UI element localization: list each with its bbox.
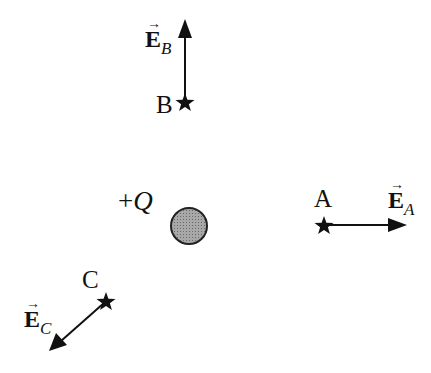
charge-symbol: Q xyxy=(133,186,153,216)
field-vector-b xyxy=(178,19,192,100)
charge-label: +Q xyxy=(118,188,153,215)
vector-arrow-icon: → xyxy=(147,17,161,31)
star-icon xyxy=(176,93,195,111)
star-icon xyxy=(315,216,334,234)
positive-charge-circle xyxy=(171,208,207,244)
vector-arrow-icon: → xyxy=(26,297,40,311)
field-vector-a xyxy=(326,218,407,232)
field-label-c: →EC xyxy=(24,307,51,331)
electric-field-diagram: +Q A B C →EA →EB →EC xyxy=(0,0,431,373)
diagram-graphics xyxy=(0,0,431,373)
charge-sign: + xyxy=(118,186,133,216)
point-label-b: B xyxy=(156,92,173,117)
point-label-a: A xyxy=(314,186,332,211)
point-label-c: C xyxy=(82,267,99,292)
vector-arrow-icon: → xyxy=(390,178,404,192)
field-label-a: →EA xyxy=(388,188,414,212)
field-vector-c xyxy=(49,303,104,351)
field-label-b: →EB xyxy=(145,27,171,51)
